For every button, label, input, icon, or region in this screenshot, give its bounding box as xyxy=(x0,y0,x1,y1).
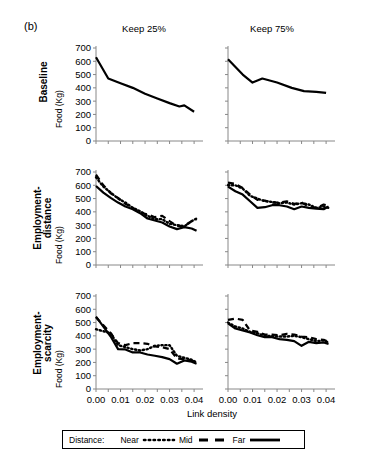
svg-text:100: 100 xyxy=(75,122,91,133)
svg-text:0.02: 0.02 xyxy=(268,394,287,405)
legend-key-dotted-icon xyxy=(144,436,174,444)
svg-text:500: 500 xyxy=(75,69,91,80)
svg-text:0.04: 0.04 xyxy=(185,394,204,405)
svg-text:600: 600 xyxy=(75,56,91,67)
svg-text:100: 100 xyxy=(75,246,91,257)
svg-text:300: 300 xyxy=(75,220,91,231)
legend-key-dashed-icon xyxy=(198,436,228,444)
svg-text:0.04: 0.04 xyxy=(317,394,336,405)
svg-text:400: 400 xyxy=(75,206,91,217)
svg-text:200: 200 xyxy=(75,233,91,244)
svg-text:0.01: 0.01 xyxy=(111,394,130,405)
svg-text:0: 0 xyxy=(86,259,91,270)
legend-label-far: Far xyxy=(233,435,246,445)
legend: Distance: Near Mid Far xyxy=(62,430,305,449)
svg-text:600: 600 xyxy=(75,304,91,315)
svg-text:400: 400 xyxy=(75,330,91,341)
svg-text:0.02: 0.02 xyxy=(136,394,155,405)
svg-text:700: 700 xyxy=(75,290,91,301)
plot-area-svg: 0100200300400500600700010020030040050060… xyxy=(0,0,367,464)
svg-text:200: 200 xyxy=(75,109,91,120)
svg-text:0: 0 xyxy=(86,135,91,146)
svg-text:0.00: 0.00 xyxy=(87,394,106,405)
svg-text:0.03: 0.03 xyxy=(160,394,179,405)
svg-text:0.03: 0.03 xyxy=(292,394,311,405)
legend-title: Distance: xyxy=(69,435,104,445)
svg-text:200: 200 xyxy=(75,357,91,368)
svg-text:600: 600 xyxy=(75,180,91,191)
svg-text:700: 700 xyxy=(75,42,91,53)
svg-text:100: 100 xyxy=(75,370,91,381)
svg-text:500: 500 xyxy=(75,317,91,328)
svg-text:300: 300 xyxy=(75,344,91,355)
svg-text:0.00: 0.00 xyxy=(219,394,238,405)
svg-text:300: 300 xyxy=(75,96,91,107)
svg-text:400: 400 xyxy=(75,82,91,93)
figure-panel-b: (b) Keep 25% Keep 75% Baseline Employmen… xyxy=(0,0,367,464)
x-axis-title: Link density xyxy=(157,408,267,419)
svg-text:700: 700 xyxy=(75,166,91,177)
legend-key-solid-icon xyxy=(250,436,280,444)
svg-text:0.01: 0.01 xyxy=(243,394,262,405)
svg-text:0: 0 xyxy=(86,383,91,394)
legend-label-mid: Mid xyxy=(179,435,193,445)
svg-text:500: 500 xyxy=(75,193,91,204)
legend-label-near: Near xyxy=(120,435,138,445)
